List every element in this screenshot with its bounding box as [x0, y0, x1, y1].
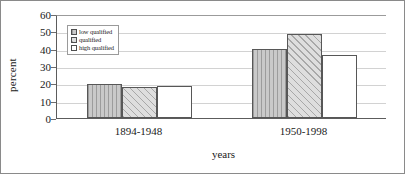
- x-axis-tick-label: 1950-1998: [280, 125, 328, 137]
- legend-item-label: low qualified: [79, 28, 112, 36]
- legend-item[interactable]: high qualified: [71, 44, 114, 52]
- y-axis-tick-label: 10: [40, 96, 51, 108]
- y-axis-tick-label: 60: [40, 9, 51, 21]
- bar-chart-figure: percent 0102030405060 1894-19481950-1998…: [0, 0, 405, 174]
- chart-legend: low qualifiedqualifiedhigh qualified: [67, 25, 119, 55]
- legend-item-label: high qualified: [79, 44, 114, 52]
- x-axis-title-text: years: [170, 148, 235, 160]
- legend-item[interactable]: low qualified: [71, 28, 114, 36]
- legend-swatch-icon: [71, 45, 77, 51]
- y-axis-tick-labels: 0102030405060: [25, 15, 51, 119]
- bar-group: [252, 16, 357, 118]
- bar: [122, 87, 157, 118]
- bar: [87, 84, 122, 118]
- y-axis-title-text: percent: [6, 58, 18, 92]
- bar: [322, 55, 357, 118]
- x-axis-tick-label: 1894-1948: [115, 125, 163, 137]
- y-axis-tick-label: 30: [40, 61, 51, 73]
- y-axis-tick-label: 40: [40, 44, 51, 56]
- y-axis-tick-mark: [51, 119, 56, 120]
- bar: [252, 49, 287, 118]
- bar: [287, 34, 322, 118]
- y-axis-tick-label: 20: [40, 78, 51, 90]
- y-axis-tick-label: 50: [40, 26, 51, 38]
- legend-swatch-icon: [71, 29, 77, 35]
- x-axis-title: years: [1, 148, 404, 160]
- bar: [157, 86, 192, 118]
- y-axis-title: percent: [5, 35, 19, 115]
- legend-item[interactable]: qualified: [71, 36, 114, 44]
- legend-item-label: qualified: [79, 36, 101, 44]
- x-axis-tick-labels: 1894-19481950-1998: [56, 125, 386, 141]
- legend-swatch-icon: [71, 37, 77, 43]
